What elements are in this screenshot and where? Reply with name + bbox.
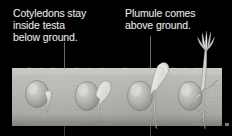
leader-line-left-lower (64, 126, 65, 136)
stage-1-seedling (22, 78, 72, 126)
stage-4-seedling (176, 30, 228, 130)
germination-diagram: Cotyledons stay inside testa below groun… (0, 0, 232, 136)
stage-3-seedling (122, 56, 184, 130)
caption-cotyledons: Cotyledons stay inside testa below groun… (13, 8, 86, 43)
leader-line-right-lower (150, 126, 151, 136)
caption-plumule: Plumule comes above ground. (125, 8, 195, 32)
stage-2-seedling (70, 70, 128, 126)
leader-line-right (150, 36, 151, 69)
plumule-leaves (198, 31, 215, 52)
leader-line-left (64, 42, 65, 69)
